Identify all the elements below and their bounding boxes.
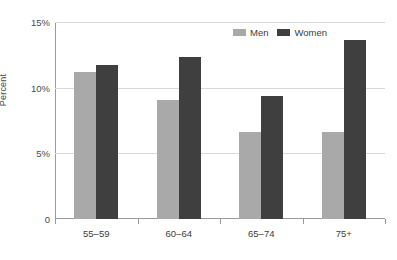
bar-group xyxy=(157,22,201,219)
bar-men[interactable] xyxy=(322,132,344,219)
x-tick-label: 75+ xyxy=(309,228,379,239)
legend-item-men[interactable]: Men xyxy=(233,27,268,38)
y-axis-line xyxy=(55,22,56,219)
legend-item-women[interactable]: Women xyxy=(277,27,327,38)
x-tick-label: 60–64 xyxy=(144,228,214,239)
plot-area xyxy=(55,22,385,219)
y-tick-label: 5% xyxy=(10,148,50,159)
y-tick-label: 0 xyxy=(10,214,50,225)
y-tick-label: 10% xyxy=(10,82,50,93)
x-tick-mark xyxy=(138,219,139,224)
bar-women[interactable] xyxy=(179,57,201,219)
bar-women[interactable] xyxy=(96,65,118,219)
bar-men[interactable] xyxy=(157,100,179,220)
legend-label: Women xyxy=(294,27,327,38)
bar-women[interactable] xyxy=(261,96,283,219)
x-tick-label: 55–59 xyxy=(61,228,131,239)
y-tick-label: 15% xyxy=(10,17,50,28)
x-tick-label: 65–74 xyxy=(226,228,296,239)
legend-swatch-icon xyxy=(277,29,290,36)
bar-women[interactable] xyxy=(344,40,366,219)
chart-legend: MenWomen xyxy=(233,27,327,38)
bar-chart: Percent 05%10%15% 55–5960–6465–7475+ Men… xyxy=(0,0,397,260)
legend-label: Men xyxy=(250,27,268,38)
bar-group xyxy=(322,22,366,219)
bar-group xyxy=(239,22,283,219)
x-tick-mark xyxy=(220,219,221,224)
x-tick-mark xyxy=(385,219,386,224)
bar-men[interactable] xyxy=(74,72,96,219)
y-axis-ticks: 05%10%15% xyxy=(0,22,50,219)
bar-group xyxy=(74,22,118,219)
x-tick-mark xyxy=(303,219,304,224)
legend-swatch-icon xyxy=(233,29,246,36)
bar-men[interactable] xyxy=(239,132,261,219)
x-tick-mark xyxy=(55,219,56,224)
